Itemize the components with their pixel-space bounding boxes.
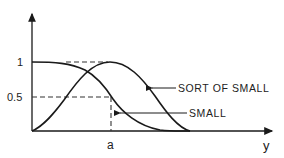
- x-axis-label: y: [263, 138, 270, 153]
- x-tick-a: a: [107, 138, 114, 152]
- y-tick-one: 1: [17, 56, 23, 68]
- membership-diagram: 1 0.5 a y SORT OF SMALL SMALL: [0, 0, 284, 158]
- label-sort-of-small: SORT OF SMALL: [178, 82, 269, 94]
- y-tick-half: 0.5: [7, 91, 22, 103]
- curve-small: [32, 62, 190, 131]
- label-small: SMALL: [189, 107, 226, 119]
